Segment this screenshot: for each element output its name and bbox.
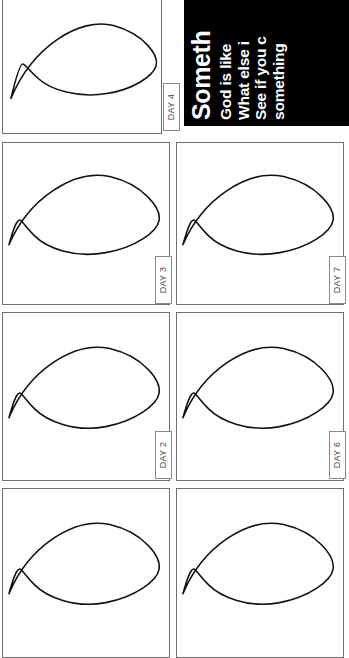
panel-day-6[interactable]: DAY 6 [176, 312, 344, 481]
panel-day-2-artwork [3, 313, 169, 480]
panel-bottom-right-artwork [177, 489, 343, 657]
day-tab-7-label: DAY 7 [333, 267, 343, 294]
text-callout-line-2: What else i [235, 0, 253, 120]
panel-bottom-left-artwork [3, 489, 169, 657]
crescent-leaf-outline-icon [177, 313, 343, 480]
text-callout-rotated-content: Someth God is like What else i See if yo… [188, 0, 288, 120]
day-tab-6-label: DAY 6 [333, 442, 343, 469]
crescent-leaf-outline-icon [3, 313, 169, 480]
panel-bottom-left[interactable] [2, 488, 170, 658]
day-tab-4: DAY 4 [163, 83, 180, 131]
day-tab-3-label: DAY 3 [159, 267, 169, 294]
day-tab-2-label: DAY 2 [159, 442, 169, 469]
day-tab-7: DAY 7 [329, 256, 346, 304]
crescent-leaf-outline-icon [177, 489, 343, 657]
panel-bottom-right[interactable] [176, 488, 344, 658]
panel-day-7[interactable]: DAY 7 [176, 142, 344, 305]
text-callout-line-1: God is like [217, 0, 235, 120]
crescent-leaf-outline-icon [3, 0, 161, 133]
crescent-leaf-outline-icon [3, 143, 169, 304]
text-callout-heading: Someth [188, 0, 214, 120]
panel-day-7-artwork [177, 143, 343, 304]
day-tab-3: DAY 3 [155, 256, 172, 304]
day-tab-6: DAY 6 [329, 431, 346, 479]
day-tab-4-label: DAY 4 [167, 94, 177, 121]
panel-day-6-artwork [177, 313, 343, 480]
text-callout-line-3: See if you c [252, 0, 270, 120]
panel-day-3[interactable]: DAY 3 [2, 142, 170, 305]
text-callout-panel: Someth God is like What else i See if yo… [184, 0, 349, 126]
panel-day-4-artwork [3, 0, 161, 133]
crescent-leaf-outline-icon [177, 143, 343, 304]
panel-day-3-artwork [3, 143, 169, 304]
crescent-leaf-outline-icon [3, 489, 169, 657]
text-callout-line-4: something [270, 0, 288, 120]
day-tab-2: DAY 2 [155, 431, 172, 479]
panel-day-4[interactable]: DAY 4 [2, 0, 162, 134]
panel-day-2[interactable]: DAY 2 [2, 312, 170, 481]
